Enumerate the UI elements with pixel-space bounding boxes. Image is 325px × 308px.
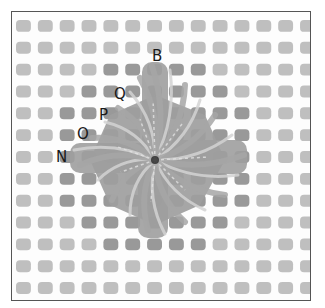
center-hole: [151, 156, 159, 164]
label-o: O: [77, 127, 89, 142]
star-stitch: [0, 0, 325, 308]
label-p: P: [99, 108, 108, 123]
label-b: B: [152, 49, 162, 64]
label-q: Q: [114, 87, 126, 102]
label-n: N: [56, 150, 67, 165]
